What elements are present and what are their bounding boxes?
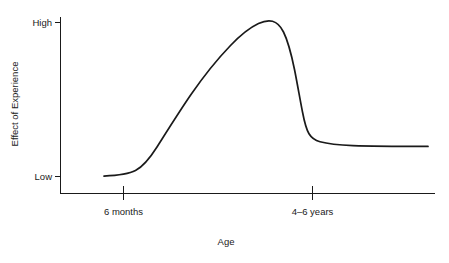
y-tick-label-high: High xyxy=(32,17,52,28)
x-tick-label-6-months: 6 months xyxy=(104,206,143,217)
y-tick-label-low: Low xyxy=(35,171,53,182)
chart-background xyxy=(0,0,449,263)
x-axis-title: Age xyxy=(218,236,235,247)
y-axis-title: Effect of Experience xyxy=(9,62,20,147)
sensitive-period-line-chart: High Low 6 months 4–6 years Effect of Ex… xyxy=(0,0,449,263)
x-tick-label-4-6-years: 4–6 years xyxy=(292,206,334,217)
chart-figure: High Low 6 months 4–6 years Effect of Ex… xyxy=(0,0,449,263)
